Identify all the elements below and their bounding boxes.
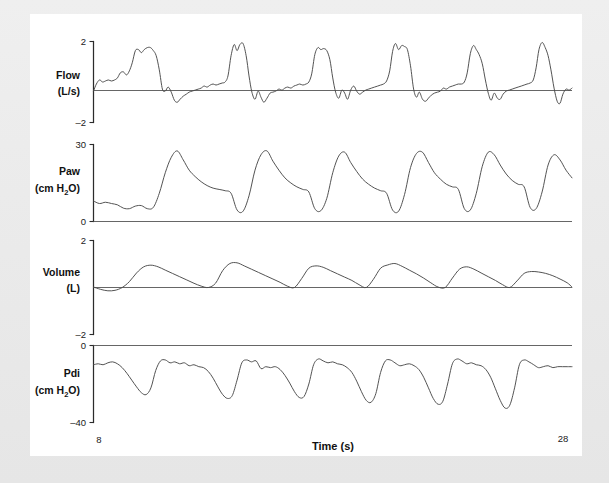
flow-axis-label-line1: Flow — [56, 69, 81, 81]
volume-tick-label-top: 2 — [81, 235, 86, 246]
paw-waveform-trace — [94, 151, 573, 213]
panel-pdi: 0 –40 Pdi (cm H2O) — [35, 340, 572, 428]
figure-root: 2 –2 Flow (L/s) 30 0 Paw (cm H2O) — [0, 0, 609, 483]
flow-tick-label-bottom: –2 — [75, 117, 86, 128]
paw-unit-pre: (cm H — [35, 182, 64, 194]
x-tick-label-start: 8 — [96, 434, 101, 445]
volume-waveform-trace — [94, 263, 573, 291]
volume-axis-label-line1: Volume — [43, 266, 80, 278]
x-axis-title: Time (s) — [312, 440, 354, 452]
pdi-unit-post: O) — [68, 384, 80, 396]
panel-paw: 30 0 Paw (cm H2O) — [35, 139, 572, 227]
panel-flow: 2 –2 Flow (L/s) — [56, 36, 572, 128]
pdi-tick-label-bottom: –40 — [70, 417, 86, 428]
paw-axis-label-line1: Paw — [59, 165, 81, 177]
paw-axis-label-line2: (cm H2O) — [35, 182, 80, 197]
paw-tick-label-bottom: 0 — [81, 216, 86, 227]
volume-tick-label-bottom: –2 — [75, 329, 86, 340]
volume-axis-label-line2: (L) — [67, 282, 80, 294]
pdi-axis-label-line2: (cm H2O) — [35, 384, 80, 399]
pdi-waveform-trace — [94, 359, 573, 409]
flow-axis-label-line2: (L/s) — [58, 85, 80, 97]
x-axis: 8 28 Time (s) — [96, 433, 568, 452]
pdi-axis-label-line1: Pdi — [64, 367, 80, 379]
pdi-unit-pre: (cm H — [35, 384, 64, 396]
paw-unit-post: O) — [68, 182, 80, 194]
flow-tick-label-top: 2 — [81, 36, 86, 47]
flow-waveform-trace — [94, 42, 573, 103]
panel-volume: 2 –2 Volume (L) — [43, 235, 572, 340]
pdi-tick-label-top: 0 — [81, 340, 86, 351]
x-tick-label-end: 28 — [558, 433, 569, 444]
waveform-figure: 2 –2 Flow (L/s) 30 0 Paw (cm H2O) — [0, 0, 609, 483]
paw-tick-label-top: 30 — [75, 139, 86, 150]
